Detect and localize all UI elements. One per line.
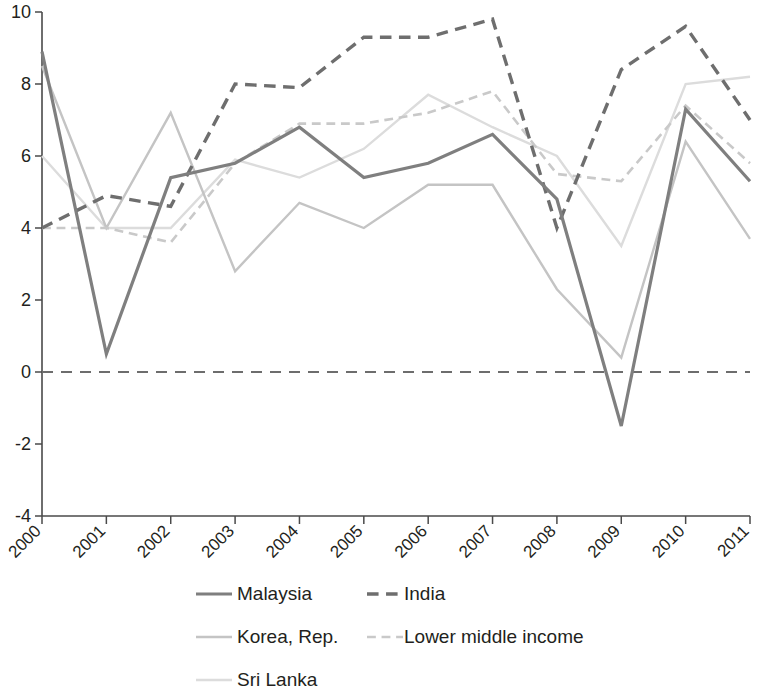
x-tick-label: 2003: [198, 521, 238, 561]
series-line-sri-lanka: [42, 77, 750, 246]
y-tick-label: 4: [21, 218, 31, 238]
x-tick-label: 2011: [714, 521, 753, 560]
series-line-malaysia: [42, 52, 750, 426]
x-tick-label: 2008: [520, 521, 560, 561]
x-tick-label: 2004: [262, 521, 302, 561]
x-tick-label: 2010: [648, 521, 688, 561]
y-tick-label: 10: [11, 2, 31, 22]
legend-label-lower-middle-income: Lower middle income: [404, 626, 584, 647]
y-axis: 1086420-2-4: [11, 2, 42, 526]
y-tick-label: 2: [21, 290, 31, 310]
x-tick-label: 2002: [133, 521, 173, 561]
line-chart: 1086420-2-4 2000200120022003200420052006…: [0, 0, 757, 697]
y-tick-label: 8: [21, 74, 31, 94]
series-layer: [42, 19, 750, 426]
series-line-lower-middle-income: [42, 91, 750, 242]
y-tick-label: 0: [21, 362, 31, 382]
x-tick-label: 2005: [326, 521, 366, 561]
x-tick-label: 2007: [455, 521, 495, 561]
y-tick-label: -2: [15, 434, 31, 454]
x-axis: 2000200120022003200420052006200720082009…: [5, 516, 753, 562]
x-tick-label: 2006: [391, 521, 431, 561]
x-tick-label: 2009: [584, 521, 624, 561]
chart-canvas: 1086420-2-4 2000200120022003200420052006…: [0, 0, 757, 697]
x-tick-label: 2001: [69, 521, 109, 561]
legend-label-korea-rep: Korea, Rep.: [237, 626, 338, 647]
legend-label-malaysia: Malaysia: [237, 583, 312, 604]
series-line-india: [42, 19, 750, 228]
y-tick-label: 6: [21, 146, 31, 166]
chart-legend: MalaysiaIndiaKorea, Rep.Lower middle inc…: [196, 583, 584, 690]
legend-label-sri-lanka: Sri Lanka: [237, 669, 318, 690]
x-tick-label: 2000: [5, 521, 45, 561]
legend-label-india: India: [404, 583, 446, 604]
